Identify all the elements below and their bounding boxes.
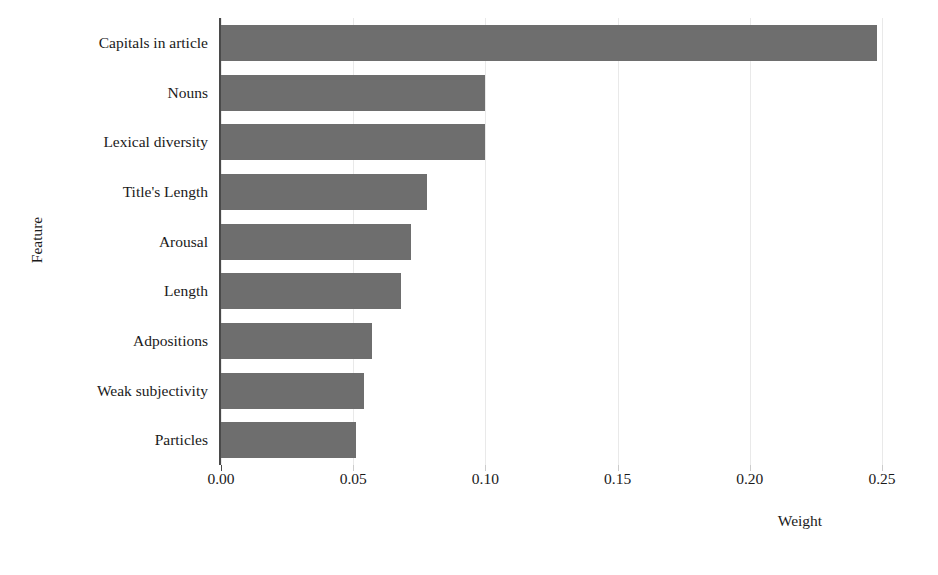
bar-fill — [221, 75, 485, 111]
x-tick-label: 0.05 — [340, 470, 367, 488]
bar-fill — [221, 224, 411, 260]
bar — [221, 273, 401, 309]
x-tick-label: 0.00 — [207, 470, 234, 488]
bar — [221, 124, 485, 160]
gridline — [485, 18, 486, 465]
x-tick-label: 0.15 — [604, 470, 631, 488]
x-tick-label: 0.20 — [736, 470, 763, 488]
bar — [221, 174, 427, 210]
x-tick-label: 0.25 — [868, 470, 895, 488]
x-axis-title-text: Weight — [778, 512, 822, 529]
x-axis-title: Weight — [0, 512, 938, 530]
gridline — [618, 18, 619, 465]
bar-fill — [221, 273, 401, 309]
x-tick-label: 0.10 — [472, 470, 499, 488]
gridline — [750, 18, 751, 465]
bar — [221, 25, 877, 61]
bar — [221, 224, 411, 260]
bar — [221, 422, 356, 458]
bar — [221, 75, 485, 111]
bar — [221, 373, 364, 409]
bar-chart-figure: Capitals in articleNounsLexical diversit… — [0, 0, 938, 575]
bar-fill — [221, 373, 364, 409]
gridline — [882, 18, 883, 465]
bar-fill — [221, 323, 372, 359]
y-axis-title: Feature — [24, 0, 50, 575]
bar-fill — [221, 124, 485, 160]
bar — [221, 323, 372, 359]
y-axis-title-text: Feature — [28, 216, 46, 262]
bar-fill — [221, 422, 356, 458]
bar-fill — [221, 174, 427, 210]
bar-fill — [221, 25, 877, 61]
